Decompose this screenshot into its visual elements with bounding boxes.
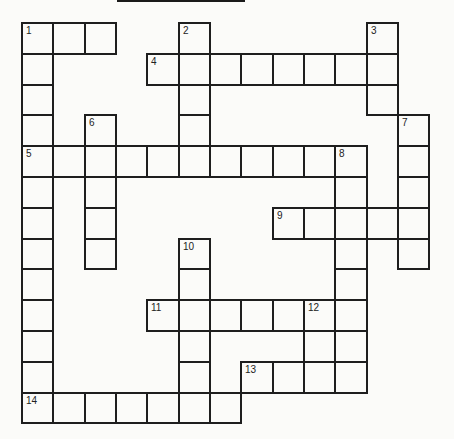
- crossword-cell[interactable]: [178, 53, 211, 86]
- crossword-cell[interactable]: [240, 299, 274, 332]
- crossword-cell[interactable]: [178, 299, 211, 332]
- crossword-cell[interactable]: [178, 330, 211, 363]
- crossword-cell[interactable]: [146, 145, 180, 178]
- clue-number: 3: [371, 25, 377, 36]
- crossword-cell[interactable]: [21, 207, 54, 240]
- crossword-cell[interactable]: [52, 145, 86, 178]
- clue-number: 6: [89, 117, 95, 128]
- crossword-cell[interactable]: [303, 330, 336, 363]
- crossword-cell[interactable]: 12: [303, 299, 336, 332]
- clue-number: 8: [339, 148, 345, 159]
- crossword-cell[interactable]: [178, 268, 211, 301]
- crossword-grid: 1523486791011121314: [0, 0, 454, 439]
- crossword-cell[interactable]: [397, 207, 430, 240]
- crossword-cell[interactable]: [21, 53, 54, 86]
- crossword-cell[interactable]: 8: [334, 145, 368, 178]
- crossword-cell[interactable]: [240, 145, 274, 178]
- crossword-cell[interactable]: [240, 53, 274, 86]
- crossword-cell[interactable]: [84, 392, 117, 424]
- crossword-cell[interactable]: [115, 392, 148, 424]
- crossword-cell[interactable]: 9: [272, 207, 305, 240]
- crossword-cell[interactable]: [334, 53, 368, 86]
- crossword-cell[interactable]: [178, 361, 211, 394]
- crossword-cell[interactable]: [366, 53, 399, 86]
- crossword-cell[interactable]: [397, 176, 430, 209]
- crossword-cell[interactable]: [397, 238, 430, 270]
- crossword-cell[interactable]: 3: [366, 22, 399, 55]
- crossword-cell[interactable]: [334, 330, 368, 363]
- crossword-cell[interactable]: [178, 145, 211, 178]
- clue-number: 14: [26, 395, 37, 406]
- crossword-cell[interactable]: [334, 176, 368, 209]
- clue-number: 9: [277, 210, 283, 221]
- clue-number: 11: [151, 302, 161, 313]
- crossword-cell[interactable]: [84, 176, 117, 209]
- crossword-cell[interactable]: [272, 361, 305, 394]
- crossword-cell[interactable]: [209, 299, 242, 332]
- crossword-cell[interactable]: [52, 392, 86, 424]
- crossword-cell[interactable]: [178, 392, 211, 424]
- crossword-cell[interactable]: [21, 361, 54, 394]
- crossword-cell[interactable]: 4: [146, 53, 180, 86]
- crossword-cell[interactable]: [52, 22, 86, 55]
- crossword-cell[interactable]: [366, 84, 399, 116]
- clue-number: 2: [183, 25, 189, 36]
- clue-number: 7: [402, 117, 408, 128]
- crossword-cell[interactable]: [21, 114, 54, 147]
- crossword-cell[interactable]: [334, 238, 368, 270]
- crossword-cell[interactable]: 10: [178, 238, 211, 270]
- crossword-cell[interactable]: [303, 207, 336, 240]
- crossword-cell[interactable]: [334, 299, 368, 332]
- crossword-cell[interactable]: 14: [21, 392, 54, 424]
- crossword-cell[interactable]: [21, 84, 54, 116]
- crossword-cell[interactable]: 1: [21, 22, 54, 55]
- crossword-cell[interactable]: [209, 145, 242, 178]
- crossword-cell[interactable]: [272, 53, 305, 86]
- crossword-cell[interactable]: [334, 268, 368, 301]
- crossword-cell[interactable]: [115, 145, 148, 178]
- crossword-cell[interactable]: 13: [240, 361, 274, 394]
- crossword-cell[interactable]: [178, 114, 211, 147]
- crossword-cell[interactable]: [272, 299, 305, 332]
- clue-number: 10: [183, 241, 194, 252]
- clue-number: 13: [245, 364, 256, 375]
- crossword-cell[interactable]: [21, 176, 54, 209]
- crossword-cell[interactable]: [21, 330, 54, 363]
- crossword-cell[interactable]: [209, 392, 242, 424]
- crossword-cell[interactable]: [209, 53, 242, 86]
- clue-number: 12: [308, 302, 319, 313]
- crossword-cell[interactable]: [272, 145, 305, 178]
- crossword-cell[interactable]: [397, 145, 430, 178]
- clue-number: 1: [26, 25, 32, 36]
- crossword-cell[interactable]: 7: [397, 114, 430, 147]
- crossword-cell[interactable]: [146, 392, 180, 424]
- crossword-cell[interactable]: [84, 238, 117, 270]
- crossword-cell[interactable]: [303, 361, 336, 394]
- crossword-cell[interactable]: [303, 145, 336, 178]
- crossword-cell[interactable]: [84, 22, 117, 55]
- crossword-cell[interactable]: [21, 299, 54, 332]
- crossword-cell[interactable]: [21, 268, 54, 301]
- crossword-cell[interactable]: 2: [178, 22, 211, 55]
- crossword-cell[interactable]: [334, 207, 368, 240]
- crossword-cell[interactable]: [84, 145, 117, 178]
- clue-number: 5: [26, 148, 32, 159]
- crossword-cell[interactable]: 6: [84, 114, 117, 147]
- crossword-cell[interactable]: [84, 207, 117, 240]
- clue-number: 4: [151, 56, 157, 67]
- crossword-cell[interactable]: [334, 361, 368, 394]
- crossword-cell[interactable]: [366, 207, 399, 240]
- crossword-cell[interactable]: [21, 238, 54, 270]
- crossword-cell[interactable]: 11: [146, 299, 180, 332]
- crossword-cell[interactable]: 5: [21, 145, 54, 178]
- crossword-cell[interactable]: [303, 53, 336, 86]
- crossword-cell[interactable]: [178, 84, 211, 116]
